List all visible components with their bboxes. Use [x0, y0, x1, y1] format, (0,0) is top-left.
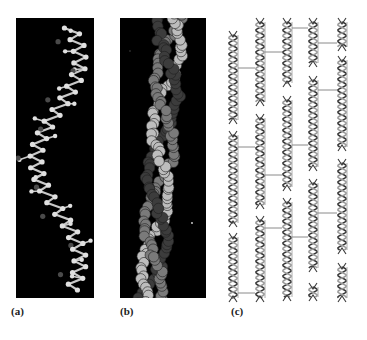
triple-helix	[338, 159, 347, 254]
triple-helix	[338, 18, 347, 51]
panel-label-b: (b)	[120, 305, 133, 317]
triple-helix	[309, 283, 318, 301]
panel-label-a: (a)	[11, 305, 24, 317]
triple-helix	[338, 263, 347, 302]
triple-helix	[283, 198, 292, 301]
space-filling-panel	[120, 18, 206, 298]
ball-and-stick-panel	[16, 18, 94, 298]
triple-helix	[229, 233, 238, 302]
triple-helix	[309, 18, 318, 67]
staggered-helix-array	[222, 14, 362, 304]
panel-label-c: (c)	[231, 305, 243, 317]
triple-helix	[229, 31, 238, 124]
ball-and-stick-model	[16, 18, 94, 298]
triple-helix	[256, 114, 265, 209]
triple-helix	[309, 179, 318, 272]
space-filling-model	[120, 18, 206, 298]
triple-helix	[256, 216, 265, 302]
triple-helix	[229, 131, 238, 227]
triple-helix	[338, 56, 347, 151]
helix-array-panel	[222, 14, 362, 304]
triple-helix	[283, 96, 292, 191]
triple-helix	[256, 18, 265, 106]
triple-helix	[283, 18, 292, 87]
triple-helix	[309, 76, 318, 171]
